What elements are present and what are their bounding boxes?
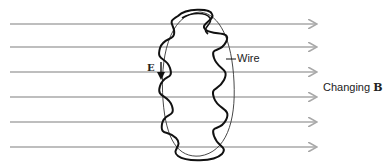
magnetic-field-symbol: B xyxy=(373,81,382,94)
wavy-wire xyxy=(159,10,227,161)
changing-field-prefix: Changing xyxy=(323,81,373,93)
electric-field-label: E xyxy=(147,62,155,73)
changing-field-label: Changing B xyxy=(323,81,382,94)
wire-label: Wire xyxy=(237,52,260,64)
